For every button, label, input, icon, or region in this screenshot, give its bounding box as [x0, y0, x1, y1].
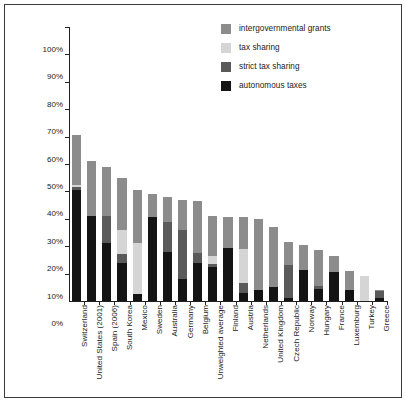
stacked-bar[interactable]	[87, 161, 96, 301]
stacked-bar[interactable]	[223, 217, 232, 301]
y-axis-tick	[65, 54, 69, 55]
bar-segment	[345, 271, 354, 290]
bar-group[interactable]	[314, 27, 323, 301]
bar-group[interactable]	[329, 27, 338, 301]
bar-segment	[269, 287, 278, 301]
bar-group[interactable]	[102, 27, 111, 301]
y-axis-tick-label: 100%	[43, 45, 63, 54]
bar-segment	[239, 249, 248, 283]
chart-frame: intergovernmental grantstax sharingstric…	[4, 4, 402, 398]
bar-segment	[254, 290, 263, 301]
stacked-bar[interactable]	[178, 200, 187, 301]
bar-segment	[375, 291, 384, 298]
x-axis-line	[69, 301, 387, 302]
bar-segment	[102, 243, 111, 301]
bar-segment	[284, 265, 293, 298]
stacked-bar[interactable]	[102, 167, 111, 301]
bar-group[interactable]	[360, 27, 369, 301]
bar-group[interactable]	[163, 27, 172, 301]
chart-figure: intergovernmental grantstax sharingstric…	[0, 0, 406, 402]
bar-segment	[178, 230, 187, 279]
bar-segment	[148, 194, 157, 217]
x-axis-tick-label: Spain (2006)	[110, 305, 119, 351]
bar-group[interactable]	[269, 27, 278, 301]
x-axis-tick-label: Netherlands	[261, 305, 270, 349]
stacked-bar[interactable]	[314, 250, 323, 301]
bar-group[interactable]	[299, 27, 308, 301]
bar-group[interactable]	[193, 27, 202, 301]
bar-segment	[102, 167, 111, 216]
bar-group[interactable]	[254, 27, 263, 301]
y-axis-tick	[65, 274, 69, 275]
stacked-bar[interactable]	[284, 242, 293, 301]
bar-group[interactable]	[148, 27, 157, 301]
x-axis-tick-label: Norway	[307, 305, 316, 332]
stacked-bar[interactable]	[117, 178, 126, 301]
stacked-bar[interactable]	[345, 271, 354, 301]
bar-segment	[284, 242, 293, 265]
y-axis-tick-label: 30%	[47, 236, 63, 245]
y-axis-tick	[65, 82, 69, 83]
bar-segment	[208, 267, 217, 301]
bar-group[interactable]	[239, 27, 248, 301]
bar-segment	[299, 245, 308, 270]
stacked-bar[interactable]	[163, 197, 172, 301]
x-axis-tick-label: South Korea	[125, 305, 134, 350]
bar-series-container	[69, 27, 387, 301]
bar-group[interactable]	[345, 27, 354, 301]
bar-group[interactable]	[72, 27, 81, 301]
stacked-bar[interactable]	[133, 190, 142, 301]
bar-segment	[329, 256, 338, 272]
plot-area	[69, 27, 387, 301]
y-axis-labels: 0%10%20%30%40%50%60%70%80%90%100%	[27, 27, 63, 301]
bar-group[interactable]	[208, 27, 217, 301]
y-axis-tick-label: 80%	[47, 99, 63, 108]
stacked-bar[interactable]	[72, 135, 81, 301]
bar-group[interactable]	[117, 27, 126, 301]
bar-segment	[87, 216, 96, 301]
x-axis-tick-label: Finland	[231, 305, 240, 332]
bar-group[interactable]	[375, 27, 384, 301]
stacked-bar[interactable]	[208, 216, 217, 301]
x-axis-tick-label: Hungary	[322, 305, 331, 336]
x-axis-tick-label: Switzerland	[80, 305, 89, 347]
stacked-bar[interactable]	[254, 219, 263, 301]
y-axis-tick	[65, 191, 69, 192]
bar-group[interactable]	[178, 27, 187, 301]
bar-segment	[193, 201, 202, 253]
y-axis-tick-label: 50%	[47, 182, 63, 191]
x-axis-tick-label: United Kingdom	[276, 305, 285, 363]
x-axis-tick-label: Germany	[186, 305, 195, 338]
x-axis-tick-label: Luxemburg	[352, 305, 361, 345]
stacked-bar[interactable]	[193, 201, 202, 301]
bar-group[interactable]	[284, 27, 293, 301]
bar-segment	[133, 243, 142, 294]
stacked-bar[interactable]	[239, 217, 248, 301]
stacked-bar[interactable]	[148, 194, 157, 301]
x-axis-tick-label: Mexico	[140, 305, 149, 331]
bar-segment	[163, 197, 172, 222]
stacked-bar[interactable]	[375, 290, 384, 301]
bar-segment	[299, 270, 308, 302]
bar-group[interactable]	[223, 27, 232, 301]
bar-group[interactable]	[87, 27, 96, 301]
bar-segment	[254, 219, 263, 290]
bar-segment	[72, 135, 81, 184]
bar-group[interactable]	[133, 27, 142, 301]
bar-segment	[87, 161, 96, 216]
x-axis-tick-label: Greece	[382, 305, 391, 332]
y-axis-tick	[65, 27, 69, 28]
bar-segment	[133, 190, 142, 243]
x-axis-tick-label: Unweighted average	[216, 305, 225, 379]
stacked-bar[interactable]	[360, 276, 369, 301]
stacked-bar[interactable]	[299, 245, 308, 301]
bar-segment	[102, 216, 111, 243]
bar-segment	[239, 283, 248, 293]
bar-segment	[117, 254, 126, 262]
stacked-bar[interactable]	[269, 227, 278, 301]
bar-segment	[117, 178, 126, 230]
stacked-bar[interactable]	[329, 256, 338, 301]
bar-segment	[178, 279, 187, 301]
y-axis-tick	[65, 219, 69, 220]
y-axis-tick	[65, 164, 69, 165]
